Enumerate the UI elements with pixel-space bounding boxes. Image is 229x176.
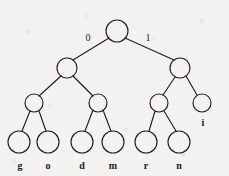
edge-label-zero: 0 xyxy=(86,32,91,43)
edge-leftleft-leaf-g xyxy=(22,111,30,131)
edge-root-left xyxy=(73,38,109,60)
binary-tree-canvas: 0 1 g o d m r n i xyxy=(0,0,229,176)
leaf-label-group: g o d m r n i xyxy=(18,117,205,171)
leaf-label-i: i xyxy=(202,117,205,128)
tree-nodes xyxy=(8,20,211,153)
edge-rightleft-leaf-n xyxy=(164,111,176,131)
leaf-label-d: d xyxy=(79,160,85,171)
leaf-label-o: o xyxy=(46,160,51,171)
edge-left-leftleft xyxy=(39,76,61,96)
node-internal-right[interactable] xyxy=(170,58,190,78)
leaf-label-r: r xyxy=(144,160,149,171)
node-leaf-g[interactable] xyxy=(8,131,30,153)
edge-right-rightright xyxy=(186,76,197,95)
node-leaf-o[interactable] xyxy=(37,131,59,153)
tree-edges xyxy=(22,38,197,131)
edge-leftleft-leaf-o xyxy=(39,111,46,131)
edge-leftright-leaf-m xyxy=(103,110,111,131)
edge-right-rightleft xyxy=(163,77,175,95)
node-leaf-r[interactable] xyxy=(135,131,157,153)
node-internal-left-left[interactable] xyxy=(25,94,43,112)
node-leaf-i[interactable] xyxy=(193,94,211,112)
tree-diagram-figure: 0 1 g o d m r n i xyxy=(0,0,229,176)
node-leaf-n[interactable] xyxy=(168,131,190,153)
edge-left-leftright xyxy=(73,76,93,96)
node-internal-right-left[interactable] xyxy=(150,94,168,112)
edge-leftright-leaf-d xyxy=(85,110,93,131)
leaf-label-g: g xyxy=(18,160,23,171)
node-leaf-d[interactable] xyxy=(71,131,93,153)
node-internal-left-right[interactable] xyxy=(89,94,107,112)
leaf-label-n: n xyxy=(176,160,182,171)
edge-rightleft-leaf-r xyxy=(149,111,155,131)
edge-label-group: 0 1 xyxy=(86,32,151,43)
edge-label-one: 1 xyxy=(146,32,151,43)
node-internal-left[interactable] xyxy=(57,58,77,78)
node-leaf-m[interactable] xyxy=(102,131,124,153)
leaf-label-m: m xyxy=(109,160,118,171)
node-root[interactable] xyxy=(106,20,128,42)
